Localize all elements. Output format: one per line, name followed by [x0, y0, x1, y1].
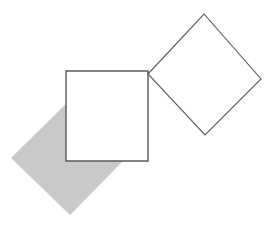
figure-canvas	[0, 0, 279, 230]
shapes-svg	[0, 0, 279, 230]
white-outlined-square	[66, 71, 148, 161]
